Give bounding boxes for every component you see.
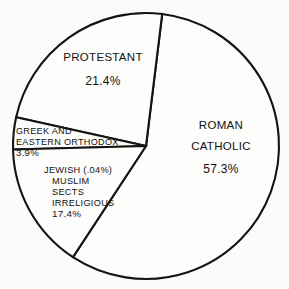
slice-label-protestant: PROTESTANT 21.4% (49, 51, 157, 88)
pie-labels-layer: ROMAN CATHOLIC 57.3% PROTESTANT 21.4% GR… (0, 0, 289, 289)
slice-label-orthodox-line2: EASTERN ORTHODOX (16, 137, 119, 148)
slice-label-protestant-line1: PROTESTANT (49, 51, 157, 65)
slice-label-jewish: JEWISH (.04%) (44, 165, 115, 176)
slice-value-greek-eastern-orthodox: 3.9% (16, 147, 119, 158)
slice-label-other-religions: JEWISH (.04%) MUSLIM SECTS IRRELIGIOUS 1… (44, 165, 115, 220)
slice-label-roman-catholic-line2: CATHOLIC (178, 140, 264, 154)
slice-label-muslim: MUSLIM (52, 176, 115, 187)
slice-label-greek-eastern-orthodox: GREEK AND EASTERN ORTHODOX 3.9% (16, 126, 119, 159)
slice-value-other-religions: 17.4% (52, 208, 115, 220)
slice-label-orthodox-line1: GREEK AND (16, 126, 119, 137)
slice-value-roman-catholic: 57.3% (178, 162, 264, 176)
slice-label-sects: SECTS (52, 187, 115, 198)
slice-label-irreligious: IRRELIGIOUS (52, 198, 115, 209)
pie-chart: ROMAN CATHOLIC 57.3% PROTESTANT 21.4% GR… (0, 0, 289, 289)
slice-value-protestant: 21.4% (49, 74, 157, 88)
slice-label-roman-catholic-line1: ROMAN (178, 119, 264, 133)
slice-label-roman-catholic: ROMAN CATHOLIC 57.3% (178, 119, 264, 176)
